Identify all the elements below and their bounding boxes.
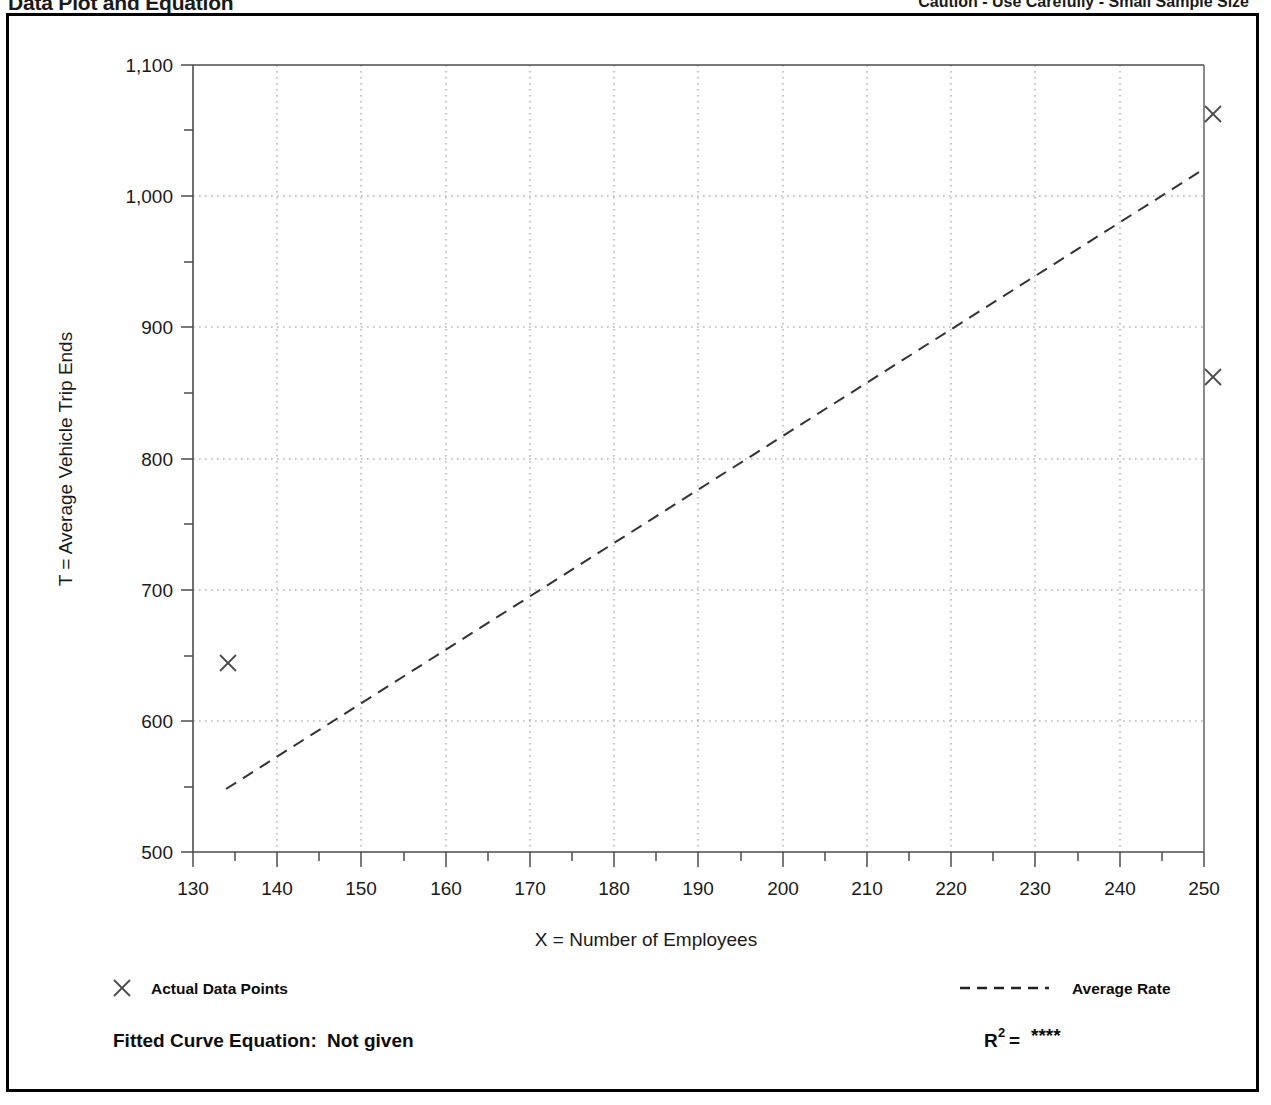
r-squared-value: **** [1031,1025,1061,1046]
x-tick-label: 160 [430,878,462,899]
legend-point-swatch [114,980,130,996]
equation-value: Not given [327,1030,414,1051]
x-tick-label: 180 [598,878,630,899]
data-point-marker [220,655,236,671]
grid-lines [193,65,1204,852]
x-tick-label: 140 [261,878,293,899]
y-tick-label: 900 [141,317,173,338]
x-axis-title: X = Number of Employees [535,929,757,950]
r-squared-exponent: 2 [998,1025,1005,1040]
x-tick-label: 210 [851,878,883,899]
x-tick-label: 190 [682,878,714,899]
chart-frame: 1,100 1,000 900 800 700 600 500 [6,13,1259,1092]
equation-label: Fitted Curve Equation: [113,1030,317,1051]
data-point-marker [1205,369,1221,385]
data-point-marker [1205,106,1221,122]
x-tick-label: 150 [345,878,377,899]
x-tick-label: 250 [1188,878,1220,899]
y-tick-labels: 1,100 1,000 900 800 700 600 500 [125,55,173,863]
x-axis-ticks [193,852,1204,867]
x-tick-label: 240 [1104,878,1136,899]
y-axis-title: T = Average Vehicle Trip Ends [55,332,76,586]
y-tick-label: 700 [141,580,173,601]
y-tick-label: 1,100 [125,55,173,76]
r-squared-equals: = [1009,1030,1020,1051]
equation-row: Fitted Curve Equation: Not given R 2 = *… [113,1025,1061,1051]
data-point-markers [220,106,1221,671]
y-tick-label: 1,000 [125,186,173,207]
y-tick-label: 500 [141,842,173,863]
legend-line-label: Average Rate [1072,980,1171,997]
x-tick-label: 200 [767,878,799,899]
legend-point-label: Actual Data Points [151,980,288,997]
average-rate-trendline [226,169,1204,789]
x-tick-label: 130 [177,878,209,899]
chart-page: Data Plot and Equation Caution - Use Car… [0,0,1271,1105]
chart-canvas: 1,100 1,000 900 800 700 600 500 [9,16,1256,1089]
x-tick-label: 170 [514,878,546,899]
x-tick-label: 220 [935,878,967,899]
caution-note: Caution - Use Carefully - Small Sample S… [918,0,1249,11]
page-header: Data Plot and Equation Caution - Use Car… [0,0,1271,13]
y-tick-label: 600 [141,711,173,732]
chart-legend: Actual Data Points Average Rate [114,980,1171,997]
y-axis-ticks [181,65,193,852]
x-tick-label: 230 [1019,878,1051,899]
x-tick-labels: 130 140 150 160 170 180 190 200 210 220 … [177,878,1220,899]
y-tick-label: 800 [141,449,173,470]
r-squared-label: R [984,1030,998,1051]
